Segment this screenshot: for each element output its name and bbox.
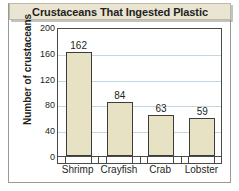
- plot-area: 162846359: [57, 28, 222, 157]
- x-tick-mark: [106, 157, 107, 164]
- x-tick-mark: [188, 157, 189, 164]
- x-axis-ticks: [57, 157, 222, 164]
- bar-value-label: 59: [197, 106, 208, 117]
- x-tick-mark: [147, 157, 148, 164]
- y-tick-label: 160: [29, 50, 55, 59]
- bar-slot: 63: [148, 27, 174, 156]
- x-tick-mark: [214, 157, 215, 164]
- x-tick-mark: [140, 157, 141, 164]
- chart-figure: Crustaceans That Ingested Plastic Number…: [0, 0, 239, 191]
- x-tick-mark: [132, 157, 133, 164]
- y-axis-tick-labels: 04080120160200: [27, 28, 55, 157]
- y-tick-label: 0: [29, 153, 55, 162]
- x-tick-mark: [91, 157, 92, 164]
- x-tick-mark: [57, 157, 58, 164]
- bar-slot: 59: [189, 27, 215, 156]
- bar-value-label: 84: [114, 90, 125, 101]
- bar-slot: 84: [107, 27, 133, 156]
- x-tick-mark: [65, 157, 66, 164]
- bar: [66, 52, 92, 156]
- bar-value-label: 63: [156, 103, 167, 114]
- x-tick-mark: [181, 157, 182, 164]
- chart-title-band: Crustaceans That Ingested Plastic: [9, 3, 231, 20]
- y-tick-label: 40: [29, 127, 55, 136]
- bar: [107, 102, 133, 156]
- bar-slot: 162: [66, 27, 92, 156]
- x-tick-label: Crab: [149, 164, 171, 175]
- x-tick-mark: [98, 157, 99, 164]
- x-tick-mark: [173, 157, 174, 164]
- y-tick-label: 120: [29, 76, 55, 85]
- x-tick-label: Crayfish: [101, 164, 138, 175]
- bar: [148, 115, 174, 156]
- y-tick-label: 200: [29, 24, 55, 33]
- chart-title: Crustaceans That Ingested Plastic: [32, 6, 208, 18]
- bar-series: 162846359: [58, 29, 221, 156]
- bar-value-label: 162: [70, 40, 87, 51]
- x-axis-tick-labels: ShrimpCrayfishCrabLobster: [57, 164, 222, 178]
- x-tick-label: Shrimp: [62, 164, 94, 175]
- y-tick-label: 80: [29, 101, 55, 110]
- x-tick-label: Lobster: [185, 164, 218, 175]
- x-tick-mark: [221, 157, 222, 164]
- bar: [189, 118, 215, 156]
